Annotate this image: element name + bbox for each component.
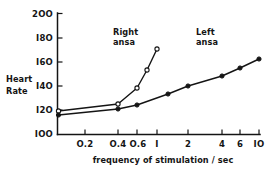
x-tick-label-4: 4 (219, 139, 225, 149)
x-tick-labels: O.2 O.4 O.6 I 2 4 6 IO (77, 139, 265, 149)
right-ansa-label-line-1: Right (113, 27, 138, 37)
right-ansa-label-line-2: ansa (113, 37, 135, 47)
left-ansa-point-3 (166, 92, 170, 96)
x-axis-title: frequency of stimulation / sec (93, 155, 234, 165)
y-tick-label-140: I4O (36, 81, 53, 91)
left-ansa-label-line-2: ansa (196, 37, 218, 47)
y-axis-title: Heart Rate (6, 74, 32, 96)
x-tick-label-0.2: O.2 (77, 139, 94, 149)
x-tick-label-0.4: O.4 (110, 139, 127, 149)
right-ansa-point-2 (135, 86, 139, 90)
right-ansa-point-1 (116, 102, 120, 106)
right-ansa-point-3 (145, 68, 149, 72)
left-ansa-point-0 (56, 113, 60, 117)
left-ansa-point-2 (135, 103, 139, 107)
left-ansa-point-6 (238, 66, 242, 70)
right-ansa-point-4 (155, 47, 159, 51)
left-ansa-point-5 (220, 74, 224, 78)
y-axis-title-line-1: Heart (6, 74, 32, 84)
y-tick-label-180: I8O (36, 33, 53, 43)
left-ansa-point-1 (116, 107, 120, 111)
x-tick-label-2: 2 (185, 139, 191, 149)
right-ansa-line (59, 49, 158, 111)
x-tick-label-0.6: O.6 (130, 139, 147, 149)
heart-rate-frequency-chart: 2OO I8O I6O I4O I2O IOO Heart Rate O.2 O… (0, 0, 270, 175)
left-ansa-point-7 (257, 57, 261, 61)
right-ansa-label: Right ansa (113, 27, 138, 47)
y-axis-title-line-2: Rate (6, 86, 28, 96)
x-tick-label-1: I (155, 139, 158, 149)
y-tick-label-160: I6O (36, 57, 53, 67)
y-tick-labels: 2OO I8O I6O I4O I2O IOO (32, 9, 53, 139)
left-ansa-line (59, 59, 260, 115)
chart-figure: 2OO I8O I6O I4O I2O IOO Heart Rate O.2 O… (0, 0, 270, 175)
left-ansa-label: Left ansa (196, 27, 218, 47)
left-ansa-point-4 (186, 84, 190, 88)
x-tick-label-10: IO (254, 139, 265, 149)
y-tick-label-120: I2O (36, 105, 53, 115)
x-tick-label-6: 6 (237, 139, 243, 149)
left-ansa-label-line-1: Left (196, 27, 215, 37)
y-tick-label-100: IOO (35, 129, 53, 139)
y-tick-label-200: 2OO (32, 9, 53, 19)
